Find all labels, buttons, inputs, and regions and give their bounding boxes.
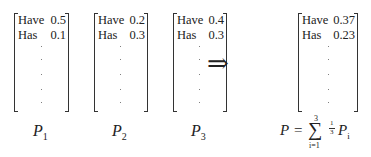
row-value: 0.2	[129, 14, 145, 27]
row-key: Has	[302, 29, 321, 42]
matrix-row-have: Have0.37	[302, 14, 355, 27]
implies-arrow-icon: ⇒	[207, 48, 229, 78]
row-value: 0.5	[50, 14, 66, 27]
row-value: 0.1	[50, 29, 66, 42]
row-value: 0.3	[208, 29, 224, 42]
frac-den: 3	[330, 128, 334, 136]
row-value: 0.23	[333, 29, 355, 42]
label-p1: P1	[33, 122, 48, 142]
matrix-row-has: Has0.1	[18, 29, 66, 42]
matrix-row-have: Have0.4	[177, 14, 224, 27]
row-key: Has	[18, 29, 37, 42]
frac-num: 1	[330, 119, 334, 127]
matrix-row-have: Have0.2	[98, 14, 145, 27]
formula-term: Pi	[338, 122, 350, 141]
matrix-row-has: Has0.3	[98, 29, 145, 42]
row-key: Has	[98, 29, 117, 42]
matrix-row-have: Have0.5	[18, 14, 66, 27]
row-key: Have	[302, 14, 328, 27]
average-formula: P = 3 ∑ i=1 1 3 Pi	[280, 114, 371, 154]
row-key: Have	[98, 14, 124, 27]
row-value: 0.3	[129, 29, 145, 42]
matrix-row-has: Has0.23	[302, 29, 355, 42]
row-key: Has	[177, 29, 196, 42]
label-p3: P3	[191, 122, 206, 142]
row-key: Have	[18, 14, 44, 27]
formula-equals: =	[294, 122, 302, 139]
label-p2: P2	[112, 122, 127, 142]
matrix-p: Have0.37 Has0.23	[298, 13, 358, 110]
row-value: 0.4	[208, 14, 224, 27]
sum-lower: i=1	[309, 141, 320, 150]
row-value: 0.37	[333, 14, 355, 27]
formula-lhs: P	[280, 122, 289, 139]
matrix-p2: Have0.2 Has0.3	[94, 13, 148, 110]
row-key: Have	[177, 14, 203, 27]
sigma-icon: ∑	[308, 119, 322, 139]
matrix-row-has: Has0.3	[177, 29, 224, 42]
matrix-p1: Have0.5 Has0.1	[14, 13, 69, 110]
